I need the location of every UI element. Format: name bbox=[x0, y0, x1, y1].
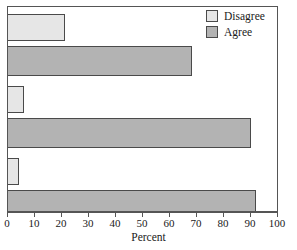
bar-disagree-group-3 bbox=[7, 158, 19, 185]
x-tick-label-80: 80 bbox=[218, 217, 229, 230]
x-axis-title: Percent bbox=[0, 231, 297, 243]
x-tick-label-100: 100 bbox=[269, 217, 286, 230]
legend: Disagree Agree bbox=[206, 10, 265, 38]
legend-swatch-agree-icon bbox=[206, 26, 218, 38]
bar-agree-group-3 bbox=[7, 190, 256, 212]
x-tick-label-10: 10 bbox=[29, 217, 40, 230]
legend-label-disagree: Disagree bbox=[224, 10, 265, 22]
x-tick-label-30: 30 bbox=[83, 217, 94, 230]
bar-agree-group-2 bbox=[7, 118, 251, 148]
legend-label-agree: Agree bbox=[224, 26, 252, 38]
x-tick-label-40: 40 bbox=[110, 217, 121, 230]
x-tick-label-90: 90 bbox=[245, 217, 256, 230]
bar-disagree-group-2 bbox=[7, 86, 24, 113]
legend-item-disagree[interactable]: Disagree bbox=[206, 10, 265, 22]
bar-agree-group-1 bbox=[7, 46, 192, 76]
bar-chart: 0102030405060708090100 Percent Disagree … bbox=[0, 0, 297, 250]
x-tick-label-70: 70 bbox=[191, 217, 202, 230]
bar-disagree-group-1 bbox=[7, 14, 65, 41]
x-tick-label-20: 20 bbox=[56, 217, 67, 230]
x-tick-label-0: 0 bbox=[4, 217, 10, 230]
x-tick-label-50: 50 bbox=[137, 217, 148, 230]
legend-swatch-disagree-icon bbox=[206, 10, 218, 22]
legend-item-agree[interactable]: Agree bbox=[206, 26, 265, 38]
x-tick-label-60: 60 bbox=[164, 217, 175, 230]
